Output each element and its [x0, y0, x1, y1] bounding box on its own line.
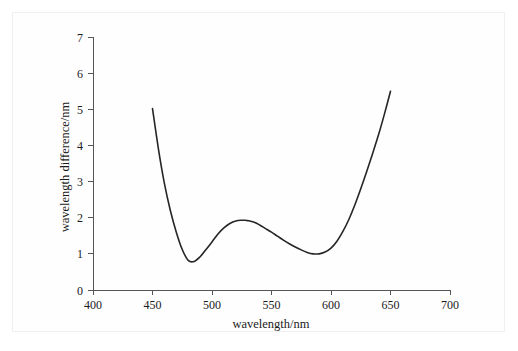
y-tick-label-6: 6	[77, 67, 83, 81]
y-tick-label-1: 1	[77, 247, 83, 261]
axis-spines	[93, 37, 450, 290]
y-axis-tick-labels: 01234567	[77, 31, 83, 298]
y-tick-label-5: 5	[77, 103, 83, 117]
y-axis-title: wavelength difference/nm	[58, 101, 72, 232]
y-axis-tick-marks	[88, 37, 93, 290]
x-tick-label-700: 700	[441, 298, 459, 312]
chart-figure: 400450500550600650700 01234567 wavelengt…	[0, 0, 518, 351]
data-curve-wavelength-difference	[153, 91, 391, 262]
y-tick-label-4: 4	[77, 139, 83, 153]
x-axis-tick-labels: 400450500550600650700	[84, 298, 459, 312]
x-tick-label-550: 550	[263, 298, 281, 312]
x-tick-label-450: 450	[144, 298, 162, 312]
x-axis-title: wavelength/nm	[232, 317, 309, 331]
x-axis-tick-marks	[93, 290, 450, 295]
x-tick-label-650: 650	[382, 298, 400, 312]
plot-canvas: 400450500550600650700 01234567 wavelengt…	[0, 0, 518, 351]
y-tick-label-7: 7	[77, 31, 83, 45]
y-tick-label-2: 2	[77, 211, 83, 225]
x-tick-label-600: 600	[322, 298, 340, 312]
y-tick-label-3: 3	[77, 175, 83, 189]
y-tick-label-0: 0	[77, 284, 83, 298]
x-tick-label-500: 500	[203, 298, 221, 312]
x-tick-label-400: 400	[84, 298, 102, 312]
